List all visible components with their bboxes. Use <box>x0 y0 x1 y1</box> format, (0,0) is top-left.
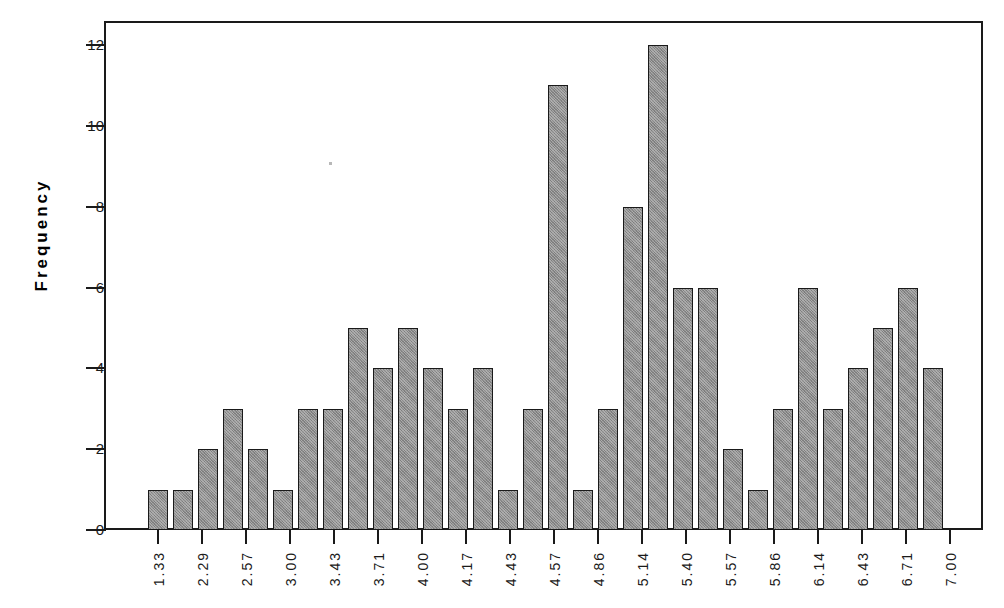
x-axis-tick-group: 1.332.292.573.003.433.714.004.174.434.57… <box>0 0 1004 608</box>
x-axis-tick <box>817 530 819 544</box>
histogram-figure: Frequency 121086420 1.332.292.573.003.43… <box>0 0 1004 608</box>
x-axis-tick <box>949 530 951 544</box>
x-axis-tick <box>509 530 511 544</box>
x-axis-tick <box>597 530 599 544</box>
x-axis-tick-label: 3.00 <box>281 551 301 586</box>
x-axis-tick <box>333 530 335 544</box>
x-axis-tick <box>157 530 159 544</box>
x-axis-tick-label: 4.17 <box>457 551 477 586</box>
x-axis-tick <box>861 530 863 544</box>
x-axis-tick <box>377 530 379 544</box>
x-axis-tick <box>729 530 731 544</box>
x-axis-tick <box>905 530 907 544</box>
x-axis-tick-label: 4.00 <box>413 551 433 586</box>
x-axis-tick-label: 4.57 <box>545 551 565 586</box>
x-axis-tick-label: 4.86 <box>589 551 609 586</box>
x-axis-tick <box>641 530 643 544</box>
x-axis-tick <box>245 530 247 544</box>
x-axis-tick-label: 6.71 <box>897 551 917 586</box>
x-axis-tick <box>289 530 291 544</box>
x-axis-tick <box>773 530 775 544</box>
x-axis-tick-label: 7.00 <box>941 551 961 586</box>
x-axis-tick-label: 4.43 <box>501 551 521 586</box>
x-axis-tick <box>553 530 555 544</box>
x-axis-tick-label: 6.43 <box>853 551 873 586</box>
x-axis-tick-label: 2.29 <box>193 551 213 586</box>
x-axis-tick <box>421 530 423 544</box>
x-axis-tick-label: 5.57 <box>721 551 741 586</box>
x-axis-tick-label: 5.40 <box>677 551 697 586</box>
x-axis-tick-label: 3.71 <box>369 551 389 586</box>
x-axis-tick-label: 1.33 <box>149 551 169 586</box>
x-axis-tick-label: 2.57 <box>237 551 257 586</box>
x-axis-tick <box>685 530 687 544</box>
x-axis-tick <box>201 530 203 544</box>
x-axis-tick-label: 5.86 <box>765 551 785 586</box>
x-axis-tick-label: 5.14 <box>633 551 653 586</box>
x-axis-tick-label: 6.14 <box>809 551 829 586</box>
x-axis-tick-label: 3.43 <box>325 551 345 586</box>
x-axis-tick <box>465 530 467 544</box>
